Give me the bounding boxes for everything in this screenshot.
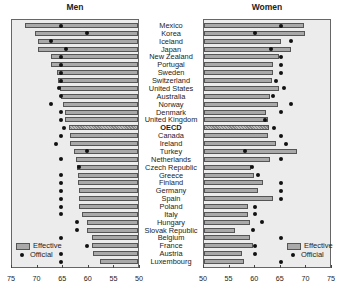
official-marker <box>59 157 63 161</box>
official-marker <box>289 39 293 43</box>
tick-label: 60 <box>244 274 264 283</box>
men-legend: Effective Official <box>16 241 62 259</box>
official-marker <box>59 173 63 177</box>
effective-bar <box>92 235 138 240</box>
effective-bar <box>38 39 138 44</box>
official-marker <box>284 142 288 146</box>
effective-bar <box>79 204 138 209</box>
effective-swatch-icon <box>16 243 30 250</box>
official-marker <box>59 181 63 185</box>
official-marker <box>59 110 63 114</box>
tick-mark <box>11 265 12 268</box>
official-marker <box>279 236 283 240</box>
effective-bar <box>204 86 279 91</box>
effective-bar <box>74 149 138 154</box>
tick-label: 65 <box>52 274 72 283</box>
tick-mark <box>203 265 204 268</box>
effective-bar <box>77 165 138 170</box>
effective-bar <box>204 47 291 52</box>
effective-bar <box>65 117 138 122</box>
tick-label: 55 <box>219 274 239 283</box>
official-marker <box>279 71 283 75</box>
effective-bar <box>60 86 138 91</box>
category-label: Luxembourg <box>139 258 203 266</box>
tick-mark <box>88 265 89 268</box>
tick-mark <box>37 265 38 268</box>
effective-bar <box>79 196 138 201</box>
effective-swatch-icon <box>287 243 301 250</box>
effective-bar <box>204 212 248 217</box>
official-marker <box>289 102 293 106</box>
official-marker <box>279 181 283 185</box>
effective-bar <box>70 133 138 138</box>
effective-bar <box>204 62 273 67</box>
official-marker <box>253 205 257 209</box>
tick-label: 70 <box>295 274 315 283</box>
official-marker <box>59 197 63 201</box>
effective-bar <box>204 110 266 115</box>
effective-bar <box>204 54 279 59</box>
official-marker-icon <box>291 253 295 257</box>
tick-label: 60 <box>78 274 98 283</box>
effective-bar <box>87 228 138 233</box>
effective-bar <box>204 204 248 209</box>
official-marker <box>279 63 283 67</box>
tick-mark <box>113 265 114 268</box>
tick-mark <box>305 265 306 268</box>
effective-bar <box>63 102 138 107</box>
effective-bar <box>204 78 272 83</box>
effective-bar <box>204 94 270 99</box>
official-marker <box>279 110 283 114</box>
effective-bar <box>204 228 235 233</box>
effective-bar <box>204 173 254 178</box>
official-marker <box>251 228 255 232</box>
official-marker <box>260 220 264 224</box>
tick-mark <box>254 265 255 268</box>
tick-mark <box>331 265 332 268</box>
effective-bar <box>204 180 263 185</box>
official-marker <box>85 244 89 248</box>
official-marker <box>59 205 63 209</box>
official-marker <box>279 24 283 28</box>
official-marker <box>279 157 283 161</box>
effective-bar <box>69 125 138 130</box>
men-panel-title: Men <box>45 2 105 12</box>
tick-mark <box>62 265 63 268</box>
effective-bar <box>204 243 253 248</box>
official-marker <box>250 165 254 169</box>
women-panel-title: Women <box>237 2 297 12</box>
official-marker <box>59 134 63 138</box>
official-marker <box>49 102 53 106</box>
effective-bar <box>79 188 138 193</box>
effective-bar <box>76 157 138 162</box>
effective-bar <box>204 235 250 240</box>
official-marker <box>253 212 257 216</box>
official-marker <box>271 94 275 98</box>
effective-bar <box>204 102 278 107</box>
official-marker <box>62 126 66 130</box>
tick-label: 75 <box>321 274 341 283</box>
effective-bar <box>204 117 268 122</box>
official-marker <box>59 260 63 264</box>
official-marker <box>59 236 63 240</box>
tick-label: 70 <box>27 274 47 283</box>
official-marker-icon <box>20 253 24 257</box>
tick-label: 50 <box>193 274 213 283</box>
official-marker <box>279 189 283 193</box>
official-marker <box>59 189 63 193</box>
women-legend: Effective Official <box>287 241 333 259</box>
effective-bar <box>204 70 273 75</box>
effective-bar <box>204 149 297 154</box>
effective-bar <box>51 62 138 67</box>
official-marker <box>59 24 63 28</box>
official-marker <box>253 252 257 256</box>
effective-bar <box>204 157 270 162</box>
men-legend-official: Official <box>16 250 62 259</box>
women-legend-effective: Effective <box>287 241 333 250</box>
effective-bar <box>204 251 242 256</box>
effective-bar <box>204 165 251 170</box>
official-marker <box>282 86 286 90</box>
effective-bar <box>65 110 138 115</box>
official-marker <box>75 220 79 224</box>
effective-bar <box>204 188 258 193</box>
